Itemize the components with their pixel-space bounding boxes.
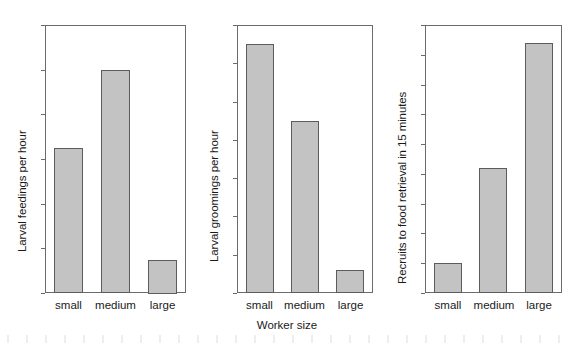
bar (291, 121, 319, 293)
figure: Larval feedings per hour 04812162024smal… (0, 0, 574, 343)
y-axis-tick-mark (421, 174, 425, 175)
y-axis-tick-mark (41, 114, 45, 115)
bar (336, 270, 364, 293)
bar (479, 168, 507, 293)
x-axis-category-label: medium (92, 300, 139, 312)
y-axis-label: Recruits to food retrieval in 15 minutes (396, 92, 408, 284)
y-axis-tick-mark (421, 85, 425, 86)
y-axis-tick-mark (421, 144, 425, 145)
x-axis-category-label: large (139, 300, 186, 312)
y-axis-tick-mark (233, 140, 237, 141)
bar (54, 148, 83, 293)
y-axis-tick-mark (421, 263, 425, 264)
x-axis-category-label: small (237, 300, 282, 312)
x-axis-label: Worker size (0, 319, 574, 331)
y-axis-tick-mark (233, 25, 237, 26)
y-axis-tick-mark (41, 248, 45, 249)
y-axis-tick-mark (41, 204, 45, 205)
x-axis-category-label: small (45, 300, 92, 312)
bar (525, 43, 553, 293)
x-axis-category-label: small (425, 300, 471, 312)
x-axis-category-label: medium (471, 300, 517, 312)
bar (434, 263, 462, 293)
y-axis-tick-mark (233, 178, 237, 179)
y-axis-tick-mark (41, 25, 45, 26)
y-axis-tick-mark (41, 159, 45, 160)
y-axis-tick-mark (421, 55, 425, 56)
x-axis-category-label: large (328, 300, 373, 312)
y-axis-tick-mark (421, 25, 425, 26)
y-axis-label: Larval groomings per hour (208, 130, 220, 262)
y-axis-tick-mark (233, 293, 237, 294)
y-axis-tick-mark (233, 102, 237, 103)
y-axis-label: Larval feedings per hour (16, 130, 28, 252)
bar (246, 44, 274, 293)
bar (148, 260, 177, 294)
bar (101, 70, 130, 293)
y-axis-tick-mark (421, 293, 425, 294)
scan-bleed-artifact (0, 335, 574, 343)
y-axis-tick-mark (41, 70, 45, 71)
y-axis-tick-mark (421, 204, 425, 205)
x-axis-category-label: medium (282, 300, 327, 312)
y-axis-tick-mark (233, 255, 237, 256)
y-axis-tick-mark (233, 63, 237, 64)
y-axis-tick-mark (421, 114, 425, 115)
y-axis-tick-mark (233, 216, 237, 217)
x-axis-category-label: large (516, 300, 562, 312)
y-axis-tick-mark (421, 233, 425, 234)
y-axis-tick-mark (41, 293, 45, 294)
